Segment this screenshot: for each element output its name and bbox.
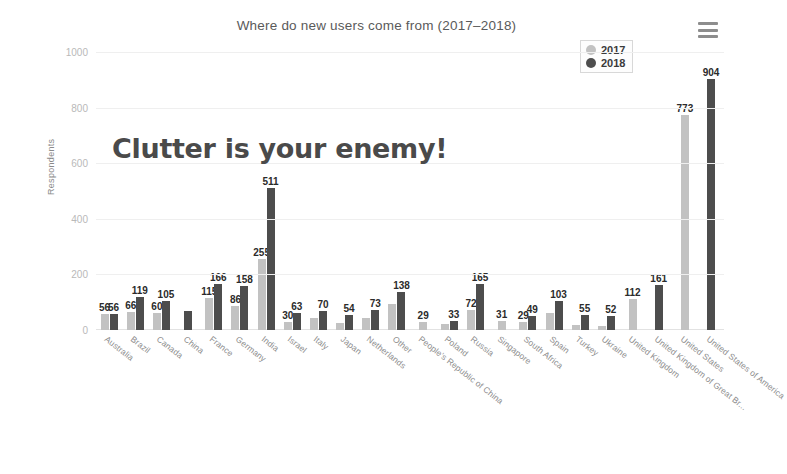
x-tick-slot: Turkey	[567, 332, 593, 452]
bar-group: 115166	[201, 52, 227, 330]
bar-2018[interactable]: 52	[607, 316, 615, 330]
bar-2018[interactable]: 158	[240, 286, 248, 330]
bar-2017[interactable]: 255	[258, 259, 266, 330]
bar-2018[interactable]: 73	[371, 310, 379, 330]
x-axis-tick-label: India	[260, 334, 281, 354]
y-axis-tick-400: 400	[71, 213, 88, 224]
x-tick-slot: Germany	[227, 332, 253, 452]
bar-group: 52	[593, 52, 619, 330]
bar-value-label: 52	[605, 305, 616, 315]
bar-2017[interactable]: 30	[284, 322, 292, 330]
bar-group: 904	[698, 52, 724, 330]
x-tick-slot: Israel	[279, 332, 305, 452]
bar-value-label: 66	[125, 301, 136, 311]
bar-value-label: 30	[282, 311, 293, 321]
bar-2017[interactable]	[362, 318, 370, 330]
bar-2018[interactable]: 161	[655, 285, 663, 330]
bar-series-container: 5656661196010511516686158255511306370547…	[96, 52, 724, 330]
bar-2017[interactable]: 66	[127, 312, 135, 330]
x-tick-slot: Japan	[332, 332, 358, 452]
bar-group: 60105	[148, 52, 174, 330]
bar-2018[interactable]: 119	[136, 297, 144, 330]
bar-2017[interactable]: 56	[101, 314, 109, 330]
x-tick-slot: United States	[672, 332, 698, 452]
bar-2017[interactable]: 29	[519, 322, 527, 330]
bar-2017[interactable]	[572, 325, 580, 330]
bar-2017[interactable]: 112	[629, 299, 637, 330]
bar-value-label: 54	[344, 304, 355, 314]
bar-2017[interactable]	[441, 324, 449, 330]
bar-2018[interactable]	[184, 311, 192, 330]
bar-2017[interactable]: 86	[231, 306, 239, 330]
bar-value-label: 158	[236, 275, 253, 285]
x-tick-slot: India	[253, 332, 279, 452]
bar-2018[interactable]: 138	[397, 292, 405, 330]
bar-2017[interactable]: 115	[205, 298, 213, 330]
x-tick-slot: United Kingdom	[619, 332, 645, 452]
x-tick-slot: United States of America	[698, 332, 724, 452]
bar-2017[interactable]: 72	[467, 310, 475, 330]
bar-group: 55	[567, 52, 593, 330]
bar-group: 31	[489, 52, 515, 330]
bar-group: 73	[358, 52, 384, 330]
x-tick-slot: Russia	[462, 332, 488, 452]
gridline	[96, 52, 724, 53]
x-tick-slot: Canada	[148, 332, 174, 452]
x-tick-slot: United Kingdom of Great Br...	[646, 332, 672, 452]
bar-2018[interactable]: 33	[450, 321, 458, 330]
bar-2017[interactable]: 60	[153, 313, 161, 330]
x-tick-slot: Spain	[541, 332, 567, 452]
bar-2018[interactable]: 63	[293, 313, 301, 331]
bar-value-label: 161	[650, 274, 667, 284]
gridline	[96, 219, 724, 220]
bar-2018[interactable]: 165	[476, 284, 484, 330]
bar-group: 86158	[227, 52, 253, 330]
bar-2017[interactable]: 31	[498, 321, 506, 330]
bar-2017[interactable]: 29	[419, 322, 427, 330]
bar-value-label: 112	[624, 288, 640, 298]
bar-value-label: 86	[230, 295, 241, 305]
y-axis-tick-0: 0	[82, 325, 88, 336]
bar-value-label: 70	[317, 300, 328, 310]
bar-2018[interactable]: 511	[267, 188, 275, 330]
x-tick-slot: Netherlands	[358, 332, 384, 452]
hamburger-menu-icon[interactable]	[698, 22, 718, 38]
bar-2017[interactable]	[310, 318, 318, 330]
bar-2018[interactable]: 54	[345, 315, 353, 330]
bar-2018[interactable]: 56	[110, 314, 118, 330]
bar-group: 112	[619, 52, 645, 330]
bar-value-label: 511	[263, 177, 279, 187]
bar-2018[interactable]: 103	[555, 301, 563, 330]
y-axis-tick-200: 200	[71, 269, 88, 280]
bar-group: 161	[646, 52, 672, 330]
bar-group: 103	[541, 52, 567, 330]
y-axis-label: Respondents	[46, 139, 56, 195]
y-axis-tick-600: 600	[71, 158, 88, 169]
x-axis-tick-labels: AustraliaBrazilCanadaChinaFranceGermanyI…	[96, 332, 724, 452]
bar-2017[interactable]	[336, 323, 344, 330]
bar-2018[interactable]: 105	[162, 301, 170, 330]
y-axis-tick-1000: 1000	[66, 47, 88, 58]
bar-2017[interactable]	[546, 313, 554, 330]
bar-value-label: 119	[132, 286, 148, 296]
menu-bar-1	[698, 22, 718, 25]
bar-2018[interactable]: 55	[581, 315, 589, 330]
bar-2017[interactable]: 773	[681, 115, 689, 330]
bar-value-label: 103	[550, 290, 567, 300]
bar-2017[interactable]	[388, 304, 396, 330]
bar-value-label: 63	[291, 302, 302, 312]
bar-2018[interactable]: 70	[319, 311, 327, 330]
bar-2017[interactable]	[598, 326, 606, 330]
plot-area: 5656661196010511516686158255511306370547…	[96, 52, 724, 330]
menu-bar-2	[698, 29, 718, 32]
x-tick-slot: Italy	[305, 332, 331, 452]
bar-group: 773	[672, 52, 698, 330]
bar-2018[interactable]: 904	[707, 79, 715, 330]
bar-2018[interactable]: 49	[528, 316, 536, 330]
gridline	[96, 274, 724, 275]
bar-value-label: 29	[418, 311, 429, 321]
x-tick-slot: Singapore	[489, 332, 515, 452]
bar-value-label: 904	[703, 68, 720, 78]
bar-2018[interactable]: 166	[214, 284, 222, 330]
